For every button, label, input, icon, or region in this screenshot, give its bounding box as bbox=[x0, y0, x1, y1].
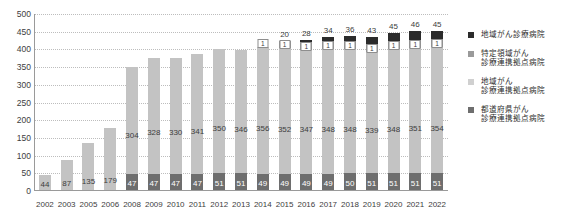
bar-value-label-regional: 135 bbox=[82, 178, 95, 186]
bar-value-label-regional: 341 bbox=[191, 128, 204, 136]
legend-swatch-icon bbox=[468, 79, 474, 85]
x-axis-tick-label: 2019 bbox=[363, 200, 381, 209]
y-axis-tick-label: 500 bbox=[1, 10, 31, 19]
bar-value-label-special: 1 bbox=[301, 42, 312, 51]
bar-column[interactable]: 179 bbox=[104, 128, 116, 191]
bar-value-label-prefectural: 47 bbox=[171, 180, 180, 188]
stacked-bar-chart: 050100150200250300350400450500 448713517… bbox=[0, 0, 587, 218]
bar-column[interactable]: 34651 bbox=[235, 50, 247, 191]
y-axis-tick-label: 350 bbox=[1, 63, 31, 72]
bar-segment-prefectural: 49 bbox=[322, 174, 334, 191]
x-axis-tick-label: 2006 bbox=[101, 200, 119, 209]
bar-column[interactable]: 35051 bbox=[213, 49, 225, 191]
x-axis-tick-label: 2010 bbox=[167, 200, 185, 209]
y-axis-tick-label: 150 bbox=[1, 134, 31, 143]
bar-value-label-regional: 346 bbox=[234, 126, 247, 134]
bar-column[interactable]: 28134749 bbox=[300, 40, 312, 191]
bar-value-label-prefectural: 51 bbox=[215, 180, 224, 188]
bar-segment-regional: 354 bbox=[431, 48, 443, 173]
x-axis-tick-label: 2011 bbox=[189, 200, 206, 209]
x-axis-tick-label: 2003 bbox=[58, 200, 76, 209]
bar-value-label-special: 1 bbox=[410, 40, 421, 49]
bar-value-label-hospital: 43 bbox=[367, 27, 376, 35]
bar-value-label-special: 1 bbox=[344, 41, 355, 50]
x-axis-tick-label: 2018 bbox=[341, 200, 359, 209]
bar-segment-regional: 339 bbox=[366, 53, 378, 173]
x-axis-tick-label: 2015 bbox=[276, 200, 294, 209]
bar-value-label-hospital: 34 bbox=[324, 27, 333, 35]
legend-item[interactable]: 特定領域がん診療連携拠点病院 bbox=[468, 49, 587, 68]
legend-item[interactable]: 都道府県がん診療連携拠点病院 bbox=[468, 105, 587, 124]
x-axis: 2002200320052006200820092010201120122013… bbox=[34, 193, 448, 209]
bar-segment-prefectural: 51 bbox=[235, 173, 247, 191]
bar-value-label-prefectural: 49 bbox=[302, 180, 311, 188]
bar-column[interactable]: 32847 bbox=[148, 58, 160, 191]
bar-segment-prefectural: 51 bbox=[366, 173, 378, 191]
bar-column[interactable]: 135 bbox=[82, 143, 94, 191]
y-axis-tick-label: 0 bbox=[1, 187, 31, 196]
bar-value-label-special: 1 bbox=[432, 39, 443, 48]
bar-segment-regional: 179 bbox=[104, 128, 116, 191]
x-axis-tick-label: 2013 bbox=[232, 200, 250, 209]
bar-column[interactable]: 45134851 bbox=[388, 33, 400, 191]
x-axis-tick-label: 2017 bbox=[319, 200, 337, 209]
y-axis-tick-label: 300 bbox=[1, 81, 31, 90]
legend-label: 都道府県がん診療連携拠点病院 bbox=[481, 105, 545, 124]
bar-value-label-prefectural: 49 bbox=[324, 180, 333, 188]
x-axis-tick-label: 2002 bbox=[36, 200, 54, 209]
bar-value-label-hospital: 36 bbox=[345, 26, 354, 34]
x-axis-tick-label: 2020 bbox=[385, 200, 403, 209]
bar-value-label-hospital: 20 bbox=[280, 31, 289, 39]
legend-swatch-icon bbox=[468, 107, 474, 113]
bar-segment-regional: 351 bbox=[409, 49, 421, 173]
x-axis-tick-label: 2012 bbox=[210, 200, 228, 209]
bar-segment-regional: 348 bbox=[388, 50, 400, 173]
bar-segment-prefectural: 51 bbox=[431, 173, 443, 191]
bar-column[interactable]: 34147 bbox=[191, 54, 203, 191]
y-axis-tick-label: 400 bbox=[1, 45, 31, 54]
bar-value-label-regional: 339 bbox=[365, 127, 378, 135]
bar-column[interactable]: 135649 bbox=[257, 47, 269, 191]
bar-column[interactable]: 20135249 bbox=[279, 41, 291, 191]
legend-label: 地域がん診療連携拠点病院 bbox=[481, 77, 545, 96]
bar-value-label-regional: 304 bbox=[125, 132, 138, 140]
bar-column[interactable]: 45135451 bbox=[431, 31, 443, 191]
bar-value-label-regional: 347 bbox=[300, 126, 313, 134]
bar-segment-regional: 348 bbox=[322, 50, 334, 173]
x-axis-line bbox=[34, 190, 448, 191]
bar-column[interactable]: 33047 bbox=[170, 58, 182, 191]
bar-column[interactable]: 87 bbox=[61, 160, 73, 191]
bar-segment-regional: 328 bbox=[148, 58, 160, 174]
bar-segment-prefectural: 47 bbox=[148, 174, 160, 191]
bar-value-label-regional: 351 bbox=[409, 125, 422, 133]
bar-value-label-regional: 328 bbox=[147, 129, 160, 137]
bar-segment-regional: 350 bbox=[213, 49, 225, 173]
bar-column[interactable]: 30447 bbox=[126, 67, 138, 191]
y-axis-tick-label: 50 bbox=[1, 169, 31, 178]
bar-column[interactable]: 36134850 bbox=[344, 36, 356, 191]
bar-value-label-hospital: 28 bbox=[302, 30, 311, 38]
x-axis-tick-label: 2021 bbox=[406, 200, 424, 209]
bar-segment-regional: 356 bbox=[257, 48, 269, 174]
bar-value-label-special: 1 bbox=[257, 39, 268, 48]
bar-column[interactable]: 34134849 bbox=[322, 37, 334, 191]
y-axis-tick-label: 200 bbox=[1, 116, 31, 125]
legend-item[interactable]: 地域がん診療連携拠点病院 bbox=[468, 77, 587, 96]
bar-segment-regional: 44 bbox=[39, 175, 51, 191]
bar-value-label-hospital: 45 bbox=[389, 23, 398, 31]
bar-value-label-prefectural: 51 bbox=[433, 180, 442, 188]
bar-value-label-prefectural: 47 bbox=[193, 180, 202, 188]
bar-segment-regional: 341 bbox=[191, 54, 203, 175]
x-axis-tick-label: 2022 bbox=[428, 200, 446, 209]
bar-column[interactable]: 44 bbox=[39, 175, 51, 191]
bar-value-label-prefectural: 51 bbox=[389, 180, 398, 188]
bar-group: 4487135179304473284733047341473505134651… bbox=[34, 14, 448, 191]
bar-segment-regional: 304 bbox=[126, 67, 138, 175]
legend-item[interactable]: 地域がん診療病院 bbox=[468, 30, 587, 40]
bar-column[interactable]: 43133951 bbox=[366, 37, 378, 191]
bar-value-label-special: 1 bbox=[279, 40, 290, 49]
bar-column[interactable]: 46135151 bbox=[409, 31, 421, 191]
x-axis-tick-label: 2014 bbox=[254, 200, 272, 209]
bar-value-label-prefectural: 51 bbox=[411, 180, 420, 188]
bar-value-label-regional: 348 bbox=[387, 126, 400, 134]
